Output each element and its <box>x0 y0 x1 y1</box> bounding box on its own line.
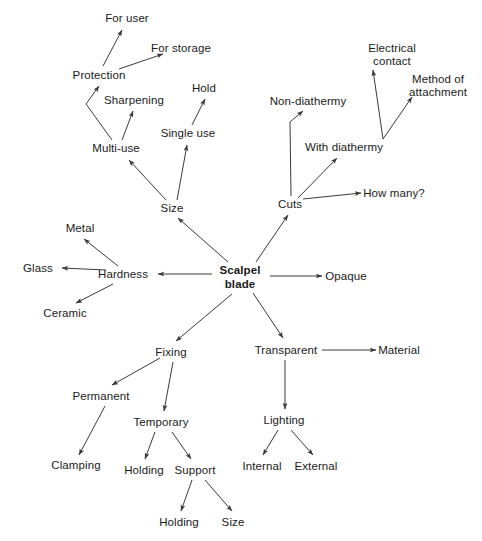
edge-lighting-to-external <box>291 430 313 455</box>
node-hardness[interactable]: Hardness <box>98 268 148 281</box>
node-hold[interactable]: Hold <box>192 82 216 95</box>
node-how-many[interactable]: How many? <box>363 187 425 200</box>
node-external[interactable]: External <box>295 460 338 473</box>
node-holding-1[interactable]: Holding <box>124 464 164 477</box>
node-temporary[interactable]: Temporary <box>133 416 188 429</box>
edge-with-diathermy-to-method <box>383 97 412 139</box>
edge-size-to-multi-use <box>129 160 166 200</box>
edge-root-to-transparent <box>253 293 283 338</box>
edge-support-to-holding-2 <box>181 480 192 511</box>
node-clamping[interactable]: Clamping <box>51 459 100 472</box>
node-root[interactable]: Scalpel blade <box>220 263 261 291</box>
edge-root-to-cuts <box>256 215 288 262</box>
node-method[interactable]: Method of attachment <box>409 73 467 99</box>
node-single-use[interactable]: Single use <box>161 127 216 140</box>
node-non-diathermy[interactable]: Non-diathermy <box>270 95 347 108</box>
edge-with-diathermy-to-electrical <box>373 70 383 139</box>
edge-lighting-to-internal <box>263 430 278 455</box>
edge-multi-use-to-sharpening <box>122 111 133 140</box>
node-material[interactable]: Material <box>378 344 420 357</box>
edge-permanent-to-clamping <box>79 406 105 455</box>
edge-fixing-to-permanent <box>112 358 160 385</box>
edge-cuts-to-with-diathermy <box>298 158 337 198</box>
node-with-diathermy[interactable]: With diathermy <box>305 141 383 154</box>
node-holding-2[interactable]: Holding <box>159 516 199 529</box>
node-permanent[interactable]: Permanent <box>72 390 129 403</box>
edge-hardness-to-metal <box>84 239 118 266</box>
node-transparent[interactable]: Transparent <box>255 344 318 357</box>
edge-root-to-size <box>178 218 228 262</box>
node-support[interactable]: Support <box>175 464 216 477</box>
node-internal[interactable]: Internal <box>242 460 281 473</box>
node-cuts[interactable]: Cuts <box>278 198 302 211</box>
edge-protection-to-for-user <box>103 30 122 66</box>
edge-root-to-fixing <box>176 294 232 341</box>
mind-map-diagram: Scalpel bladeSizeMulti-useProtectionFor … <box>0 0 482 541</box>
edge-fixing-to-temporary <box>164 362 173 411</box>
node-electrical[interactable]: Electrical contact <box>368 42 416 68</box>
node-protection[interactable]: Protection <box>73 69 126 82</box>
node-for-user[interactable]: For user <box>105 12 149 25</box>
node-for-storage[interactable]: For storage <box>151 42 211 55</box>
edge-protection-to-for-storage <box>119 54 163 69</box>
edge-size-to-single-use <box>177 145 187 200</box>
edge-support-to-size-2 <box>205 480 232 511</box>
edge-temporary-to-support <box>172 432 191 459</box>
edge-temporary-to-holding-1 <box>145 432 155 459</box>
node-lighting[interactable]: Lighting <box>263 414 304 427</box>
edge-cuts-to-how-many <box>303 193 361 199</box>
edge-hardness-to-ceramic <box>76 284 113 303</box>
node-sharpening[interactable]: Sharpening <box>104 94 164 107</box>
node-metal[interactable]: Metal <box>66 222 95 235</box>
node-ceramic[interactable]: Ceramic <box>43 307 87 320</box>
edge-cuts-to-non-diathermy <box>290 111 303 196</box>
node-opaque[interactable]: Opaque <box>325 270 367 283</box>
edge-single-use-to-hold <box>192 99 205 125</box>
node-fixing[interactable]: Fixing <box>155 346 186 359</box>
node-multi-use[interactable]: Multi-use <box>92 142 140 155</box>
node-glass[interactable]: Glass <box>23 262 53 275</box>
node-size-2[interactable]: Size <box>222 516 245 529</box>
node-size[interactable]: Size <box>161 202 184 215</box>
